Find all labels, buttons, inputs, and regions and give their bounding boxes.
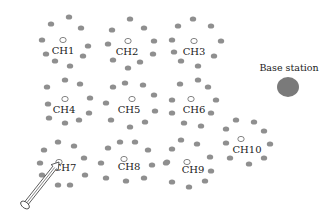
sensor-node-icon bbox=[175, 23, 181, 28]
sensor-node-icon bbox=[208, 110, 214, 115]
cluster-head-label: CH10 bbox=[232, 144, 261, 155]
cluster-ch10: CH10 bbox=[223, 117, 273, 166]
sensor-node-icon bbox=[86, 110, 92, 115]
sensor-node-icon bbox=[98, 160, 104, 165]
base-station: Base station bbox=[259, 62, 318, 97]
cluster-head-label: CH3 bbox=[183, 46, 206, 57]
sensor-node-icon bbox=[55, 139, 61, 144]
sensor-node-icon bbox=[110, 57, 116, 62]
sensor-node-icon bbox=[81, 155, 87, 160]
sensor-node-icon bbox=[261, 128, 267, 133]
sensor-node-icon bbox=[251, 119, 257, 124]
sensor-node-icon bbox=[261, 155, 267, 160]
sensor-node-icon bbox=[151, 38, 157, 43]
sensor-node-icon bbox=[151, 92, 157, 97]
cluster-ch9: CH9 bbox=[163, 137, 214, 189]
sensor-node-icon bbox=[140, 82, 146, 87]
sensor-node-icon bbox=[48, 21, 54, 26]
sensor-node-icon bbox=[78, 25, 84, 30]
cluster-head-label: CH5 bbox=[118, 104, 141, 115]
sensor-node-icon bbox=[39, 37, 45, 42]
sensor-node-icon bbox=[62, 77, 68, 82]
sensor-node-icon bbox=[141, 175, 147, 180]
sensor-node-icon bbox=[37, 160, 43, 165]
sensor-node-icon bbox=[223, 140, 229, 145]
sensor-node-icon bbox=[71, 143, 77, 148]
cluster-ch6: CH6 bbox=[169, 77, 219, 128]
sensor-node-icon bbox=[103, 100, 109, 105]
sensor-node-icon bbox=[105, 41, 111, 46]
sensor-node-icon bbox=[44, 84, 50, 89]
sensor-node-icon bbox=[110, 84, 116, 89]
wsn-cluster-diagram: CH1CH2CH3CH4CH5CH6CH7CH8CH9CH10 Base sta… bbox=[0, 0, 331, 222]
sensor-node-icon bbox=[103, 175, 109, 180]
sensor-node-icon bbox=[198, 123, 204, 128]
sensor-node-icon bbox=[145, 147, 151, 152]
sensor-node-icon bbox=[137, 59, 143, 64]
diagram-svg: CH1CH2CH3CH4CH5CH6CH7CH8CH9CH10 Base sta… bbox=[0, 0, 331, 222]
sensor-node-icon bbox=[207, 154, 213, 159]
sensor-node-icon bbox=[171, 49, 177, 54]
sensor-node-icon bbox=[55, 182, 61, 187]
sensor-node-icon bbox=[202, 178, 208, 183]
sensor-node-icon bbox=[123, 178, 129, 183]
sensor-node-icon bbox=[117, 139, 123, 144]
sensor-node-icon bbox=[208, 23, 214, 28]
sensor-node-icon bbox=[246, 161, 252, 166]
sensor-node-icon bbox=[142, 119, 148, 124]
sensor-node-icon bbox=[211, 53, 217, 58]
sensor-node-icon bbox=[125, 65, 131, 70]
clusters-layer: CH1CH2CH3CH4CH5CH6CH7CH8CH9CH10 bbox=[37, 14, 273, 189]
cluster-head-icon bbox=[62, 96, 68, 101]
sensor-node-icon bbox=[178, 58, 184, 63]
sensor-node-icon bbox=[108, 117, 114, 122]
sensor-node-icon bbox=[52, 58, 58, 63]
sensor-node-icon bbox=[181, 120, 187, 125]
sensor-node-icon bbox=[62, 120, 68, 125]
sensor-node-icon bbox=[149, 162, 155, 167]
sensor-node-icon bbox=[85, 43, 91, 48]
sensor-node-icon bbox=[227, 155, 233, 160]
sensor-node-icon bbox=[87, 95, 93, 100]
sensor-node-icon bbox=[76, 117, 82, 122]
sensor-node-icon bbox=[178, 137, 184, 142]
sensor-node-icon bbox=[190, 16, 196, 21]
sensor-node-icon bbox=[267, 141, 273, 146]
cluster-ch3: CH3 bbox=[169, 16, 224, 68]
sensor-node-icon bbox=[41, 147, 47, 152]
sensor-node-icon bbox=[169, 97, 175, 102]
sensor-node-icon bbox=[127, 16, 133, 21]
sensor-node-icon bbox=[122, 80, 128, 85]
sensor-node-icon bbox=[223, 126, 229, 131]
cluster-head-icon bbox=[129, 96, 135, 101]
cluster-head-label: CH4 bbox=[53, 104, 76, 115]
sensor-node-icon bbox=[127, 124, 133, 129]
sensor-node-icon bbox=[67, 63, 73, 68]
sensor-node-icon bbox=[150, 51, 156, 56]
cluster-ch8: CH8 bbox=[98, 139, 170, 183]
base-station-icon bbox=[277, 77, 299, 97]
sensor-node-icon bbox=[66, 14, 72, 19]
cluster-head-icon bbox=[125, 38, 131, 43]
cluster-head-label: CH6 bbox=[183, 104, 206, 115]
sensor-node-icon bbox=[195, 77, 201, 82]
sensor-node-icon bbox=[46, 115, 52, 120]
sensor-node-icon bbox=[169, 37, 175, 42]
sensor-node-icon bbox=[105, 145, 111, 150]
sensor-node-icon bbox=[132, 139, 138, 144]
sensor-node-icon bbox=[163, 160, 169, 165]
cluster-ch1: CH1 bbox=[39, 14, 91, 68]
sensor-node-icon bbox=[195, 63, 201, 68]
cluster-head-label: CH2 bbox=[116, 46, 139, 57]
sensor-node-icon bbox=[233, 117, 239, 122]
cluster-ch2: CH2 bbox=[105, 16, 157, 70]
sensor-node-icon bbox=[80, 53, 86, 58]
cluster-head-label: CH1 bbox=[52, 45, 75, 56]
arrow-pointer bbox=[19, 162, 59, 210]
sensor-node-icon bbox=[213, 97, 219, 102]
sensor-node-icon bbox=[218, 38, 224, 43]
sensor-node-icon bbox=[77, 81, 83, 86]
cluster-ch4: CH4 bbox=[44, 77, 93, 125]
sensor-node-icon bbox=[109, 27, 115, 32]
sensor-node-icon bbox=[45, 101, 51, 106]
